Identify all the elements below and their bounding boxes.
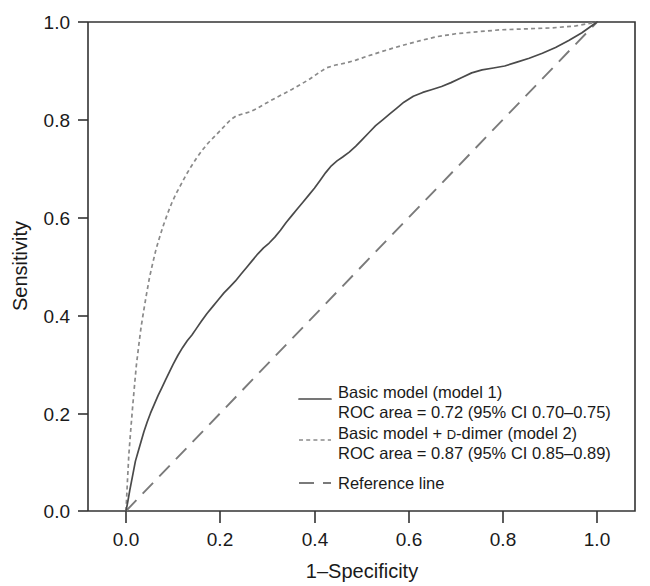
x-tick-label-0.6: 0.6 — [396, 529, 422, 550]
x-tick-label-0.8: 0.8 — [490, 529, 516, 550]
legend-reference-line1: Reference line — [338, 474, 444, 492]
legend-model1-line2: ROC area = 0.72 (95% CI 0.70–0.75) — [338, 403, 611, 421]
legend-model2-smallcap-d: D — [447, 427, 456, 442]
y-tick-label-0.0: 0.0 — [44, 501, 70, 522]
roc-plot-canvas: 1.0 0.8 0.6 0.4 0.2 0.0 0.0 0.2 0.4 0.6 … — [0, 0, 650, 586]
y-tick-label-0.4: 0.4 — [44, 306, 71, 327]
x-tick-label-0.2: 0.2 — [207, 529, 233, 550]
y-axis-ticks — [78, 22, 88, 511]
chart-legend: Basic model (model 1) ROC area = 0.72 (9… — [299, 383, 611, 492]
y-tick-label-0.6: 0.6 — [44, 208, 70, 229]
y-tick-label-1.0: 1.0 — [44, 12, 70, 33]
legend-model2-line2: ROC area = 0.87 (95% CI 0.85–0.89) — [338, 444, 611, 462]
x-axis-title: 1–Specificity — [306, 560, 418, 582]
legend-model2-prefix: Basic model + — [338, 424, 447, 442]
y-tick-label-0.2: 0.2 — [44, 404, 70, 425]
legend-model1-line1: Basic model (model 1) — [338, 383, 502, 401]
legend-model2-line1: Basic model + D-dimer (model 2) — [338, 424, 577, 442]
y-tick-label-0.8: 0.8 — [44, 110, 70, 131]
x-tick-label-0.0: 0.0 — [113, 529, 139, 550]
y-axis-tick-labels: 1.0 0.8 0.6 0.4 0.2 0.0 — [44, 12, 71, 522]
x-tick-label-1.0: 1.0 — [584, 529, 610, 550]
x-axis-ticks — [126, 511, 597, 523]
roc-curve-figure: 1.0 0.8 0.6 0.4 0.2 0.0 0.0 0.2 0.4 0.6 … — [0, 0, 650, 586]
x-tick-label-0.4: 0.4 — [302, 529, 329, 550]
x-axis-tick-labels: 0.0 0.2 0.4 0.6 0.8 1.0 — [113, 529, 610, 550]
y-axis-title: Sensitivity — [9, 221, 31, 311]
legend-model2-suffix: -dimer (model 2) — [456, 424, 577, 442]
